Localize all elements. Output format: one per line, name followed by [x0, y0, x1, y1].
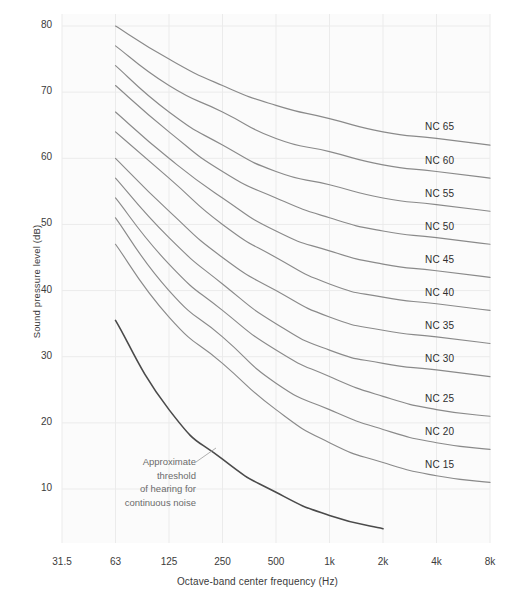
x-tick-label: 31.5: [52, 556, 71, 567]
x-tick-label: 63: [110, 556, 121, 567]
chart-canvas: [0, 0, 515, 607]
y-tick-label: 20: [18, 416, 52, 427]
nc-label-nc-15: NC 15: [425, 459, 454, 470]
x-tick-label: 125: [161, 556, 178, 567]
threshold-annotation-text: Approximate threshold of hearing for con…: [84, 455, 196, 509]
nc-curves-chart: Sound pressure level (dB) Octave-band ce…: [0, 0, 515, 607]
nc-label-nc-20: NC 20: [425, 426, 454, 437]
y-tick-label: 80: [18, 19, 52, 30]
nc-label-nc-60: NC 60: [425, 155, 454, 166]
annotation-line: continuous noise: [84, 496, 196, 510]
nc-label-nc-45: NC 45: [425, 254, 454, 265]
x-tick-label: 1k: [324, 556, 335, 567]
x-tick-label: 8k: [485, 556, 496, 567]
x-tick-label: 500: [268, 556, 285, 567]
y-tick-label: 50: [18, 217, 52, 228]
nc-label-nc-50: NC 50: [425, 221, 454, 232]
x-axis-title: Octave-band center frequency (Hz): [0, 576, 515, 587]
x-tick-label: 250: [214, 556, 231, 567]
y-tick-label: 60: [18, 151, 52, 162]
annotation-line: of hearing for: [84, 482, 196, 496]
nc-label-nc-25: NC 25: [425, 393, 454, 404]
nc-label-nc-30: NC 30: [425, 353, 454, 364]
y-tick-label: 40: [18, 284, 52, 295]
x-tick-label: 4k: [431, 556, 442, 567]
nc-label-nc-35: NC 35: [425, 320, 454, 331]
nc-label-nc-55: NC 55: [425, 188, 454, 199]
nc-label-nc-65: NC 65: [425, 121, 454, 132]
y-tick-label: 70: [18, 85, 52, 96]
annotation-line: Approximate: [84, 455, 196, 469]
x-tick-label: 2k: [378, 556, 389, 567]
annotation-line: threshold: [84, 469, 196, 483]
y-tick-label: 10: [18, 482, 52, 493]
y-tick-label: 30: [18, 350, 52, 361]
nc-label-nc-40: NC 40: [425, 287, 454, 298]
